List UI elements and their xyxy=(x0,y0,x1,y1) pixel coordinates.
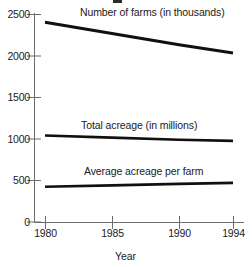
series-label-average-acreage: Average acreage per farm xyxy=(84,165,203,177)
x-tick-label-1980: 1980 xyxy=(24,228,68,239)
x-tick-label-1990: 1990 xyxy=(158,228,202,239)
farm-statistics-line-chart: 2500 2000 1500 1000 500 0 1980 1985 1990… xyxy=(0,0,251,267)
series-line-number-of-farms xyxy=(45,22,233,53)
series-line-average-acreage xyxy=(45,183,233,187)
y-tick-label-500: 500 xyxy=(0,175,30,186)
y-tick-label-0: 0 xyxy=(0,217,30,228)
y-tick-label-2000: 2000 xyxy=(0,51,30,62)
series-label-number-of-farms: Number of farms (in thousands) xyxy=(80,6,225,18)
series-line-total-acreage xyxy=(45,136,233,141)
series-label-total-acreage: Total acreage (in millions) xyxy=(81,119,197,131)
y-tick-label-1000: 1000 xyxy=(0,134,30,145)
x-tick-label-1985: 1985 xyxy=(91,228,135,239)
y-tick-label-1500: 1500 xyxy=(0,92,30,103)
y-tick-label-2500: 2500 xyxy=(0,9,30,20)
x-tick-label-1994: 1994 xyxy=(212,228,252,239)
x-axis-title: Year xyxy=(0,250,251,262)
